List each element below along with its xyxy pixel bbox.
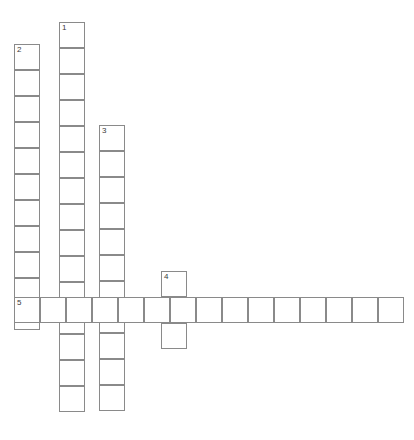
crossword-cell[interactable] (59, 48, 85, 74)
crossword-cell[interactable] (99, 255, 125, 281)
crossword-cell[interactable] (352, 297, 378, 323)
crossword-cell[interactable] (92, 297, 118, 323)
crossword-cell[interactable] (14, 148, 40, 174)
crossword-cell[interactable] (99, 151, 125, 177)
crossword-cell[interactable] (14, 122, 40, 148)
crossword-cell[interactable] (248, 297, 274, 323)
crossword-cell[interactable] (378, 297, 404, 323)
crossword-cell[interactable] (196, 297, 222, 323)
crossword-cell[interactable] (59, 334, 85, 360)
crossword-cell[interactable] (66, 297, 92, 323)
crossword-cell[interactable] (14, 96, 40, 122)
crossword-cell[interactable] (59, 126, 85, 152)
cell-number-2: 2 (17, 45, 21, 54)
crossword-cell[interactable] (222, 297, 248, 323)
crossword-cell[interactable] (144, 297, 170, 323)
crossword-cell-numbered-2[interactable]: 2 (14, 44, 40, 70)
crossword-cell[interactable] (59, 74, 85, 100)
crossword-cell-numbered-1[interactable]: 1 (59, 22, 85, 48)
cell-number-1: 1 (62, 23, 66, 32)
crossword-cell[interactable] (59, 360, 85, 386)
crossword-cell[interactable] (170, 297, 196, 323)
crossword-cell[interactable] (59, 152, 85, 178)
crossword-cell[interactable] (59, 178, 85, 204)
crossword-cell[interactable] (59, 386, 85, 412)
crossword-cell[interactable] (14, 174, 40, 200)
crossword-cell[interactable] (14, 226, 40, 252)
crossword-cell[interactable] (161, 323, 187, 349)
crossword-cell[interactable] (118, 297, 144, 323)
crossword-cell[interactable] (99, 177, 125, 203)
crossword-cell[interactable] (59, 256, 85, 282)
crossword-cell-numbered-3[interactable]: 3 (99, 125, 125, 151)
crossword-cell[interactable] (59, 204, 85, 230)
cell-number-4: 4 (164, 272, 168, 281)
crossword-cell[interactable] (40, 297, 66, 323)
crossword-cell[interactable] (14, 200, 40, 226)
crossword-cell[interactable] (59, 230, 85, 256)
crossword-cell[interactable] (59, 100, 85, 126)
crossword-cell-numbered-5[interactable]: 5 (14, 297, 40, 323)
crossword-cell[interactable] (99, 229, 125, 255)
crossword-cell[interactable] (99, 203, 125, 229)
crossword-grid: 12345 (0, 0, 414, 440)
cell-number-3: 3 (102, 126, 106, 135)
crossword-cell[interactable] (99, 385, 125, 411)
crossword-cell[interactable] (14, 252, 40, 278)
crossword-cell[interactable] (300, 297, 326, 323)
crossword-cell[interactable] (326, 297, 352, 323)
crossword-cell[interactable] (274, 297, 300, 323)
crossword-cell[interactable] (14, 70, 40, 96)
crossword-cell[interactable] (99, 359, 125, 385)
cell-number-5: 5 (17, 298, 21, 307)
crossword-cell-numbered-4[interactable]: 4 (161, 271, 187, 297)
crossword-cell[interactable] (99, 333, 125, 359)
